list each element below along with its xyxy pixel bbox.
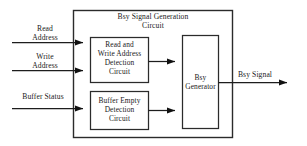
- block-diagram: Bsy Signal Generation Circuit Read and W…: [0, 0, 307, 146]
- input-label-write-address: Write Address: [21, 52, 69, 70]
- input-label-read-address: Read Address: [21, 24, 69, 42]
- outer-block-title: Bsy Signal Generation Circuit: [93, 13, 213, 30]
- block-label-buffer-empty-detection: Buffer Empty Detection Circuit: [90, 96, 149, 123]
- output-label-bsy-signal: Bsy Signal: [228, 70, 282, 79]
- block-label-read-write-address-detection: Read and Write Address Detection Circuit: [90, 40, 149, 76]
- input-label-buffer-status: Buffer Status: [12, 92, 74, 101]
- block-label-bsy-generator: Bsy Generator: [180, 73, 221, 91]
